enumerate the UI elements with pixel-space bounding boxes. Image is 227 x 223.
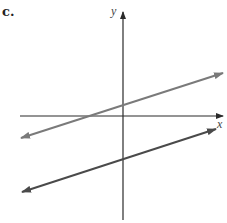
x-axis-label: x <box>217 117 222 132</box>
graph-figure: c. y x <box>0 0 227 223</box>
part-label: c. <box>2 4 14 19</box>
lower-line <box>22 129 216 192</box>
graph-canvas <box>0 0 227 223</box>
y-axis-label: y <box>111 4 116 19</box>
upper-line <box>21 73 223 138</box>
